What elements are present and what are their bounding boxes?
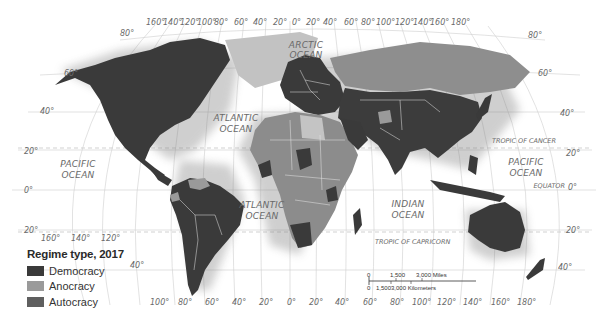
equator-label: EQUATOR [533,182,565,190]
svg-text:OCEAN: OCEAN [290,50,323,60]
svg-text:160°: 160° [491,298,510,307]
svg-text:100°: 100° [376,18,395,27]
svg-text:60°: 60° [363,298,377,307]
autocracy-swatch [27,297,44,307]
svg-text:40°: 40° [560,109,574,118]
svg-text:40°: 40° [232,298,246,307]
svg-text:40°: 40° [130,261,144,270]
tropic-of-cancer-label: TROPIC OF CANCER [492,137,556,145]
svg-text:80°: 80° [120,29,134,38]
svg-text:20°: 20° [259,298,273,307]
svg-text:80°: 80° [214,18,228,27]
ocean-label-atlantic-south: ATLANTIC OCEAN [239,200,285,221]
svg-text:0°: 0° [568,183,577,192]
svg-text:OCEAN: OCEAN [392,210,425,220]
svg-text:60°: 60° [234,18,248,27]
svg-text:40°: 40° [40,107,54,116]
svg-text:60°: 60° [538,69,552,78]
svg-text:40°: 40° [253,18,267,27]
svg-text:140°: 140° [463,298,482,307]
svg-text:20°: 20° [24,226,38,235]
svg-text:40°: 40° [558,263,572,272]
madagascar-shape [353,208,362,235]
svg-text:160°: 160° [41,234,60,243]
svg-text:20°: 20° [309,298,323,307]
ocean-label-pacific-east: PACIFIC OCEAN [60,159,96,180]
top-longitude-labels: 160° 140° 120° 100° 80° 60° 40° 20° 0° 2… [146,18,470,27]
svg-text:80°: 80° [178,298,192,307]
anocracy-swatch [27,281,44,291]
svg-text:100°: 100° [412,298,431,307]
svg-text:120°: 120° [437,298,456,307]
scale-km-1500: 1,500 [376,285,392,291]
legend-item-anocracy: Anocracy [27,279,124,295]
ocean-label-pacific-west: PACIFIC OCEAN [508,157,544,178]
svg-text:80°: 80° [361,18,375,27]
scale-miles-0: 0 [367,272,371,278]
scale-bar: 0 1,500 3,000 Miles 0 1,500 3,000 Kilome… [366,271,516,297]
svg-text:120°: 120° [395,18,414,27]
svg-text:80°: 80° [528,31,542,40]
legend-label: Anocracy [49,280,95,292]
svg-text:20°: 20° [24,147,38,156]
svg-text:ARCTIC: ARCTIC [288,40,324,50]
svg-text:0°: 0° [292,18,301,27]
svg-text:0°: 0° [24,186,33,195]
svg-text:20°: 20° [306,18,320,27]
svg-text:120°: 120° [101,234,120,243]
legend-title: Regime type, 2017 [27,248,124,260]
svg-text:OCEAN: OCEAN [62,170,95,180]
svg-text:INDIAN: INDIAN [391,199,424,209]
svg-text:60°: 60° [64,69,78,78]
svg-text:OCEAN: OCEAN [220,124,253,134]
new-zealand-shape [526,258,545,280]
scale-miles-1500: 1,500 [390,272,406,278]
svg-text:ATLANTIC: ATLANTIC [239,200,285,210]
svg-text:0°: 0° [287,298,296,307]
central-america-shape [150,168,172,186]
tropic-of-capricorn-label: TROPIC OF CAPRICORN [375,238,450,246]
legend-item-autocracy: Autocracy [27,294,124,310]
scale-bar-graphic: 0 1,500 3,000 Miles 0 1,500 3,000 Kilome… [366,271,516,297]
libya-egypt-light [300,115,325,140]
svg-text:20°: 20° [566,149,580,158]
svg-text:ATLANTIC: ATLANTIC [213,113,259,123]
svg-text:20°: 20° [273,18,287,27]
legend: Regime type, 2017 Democracy Anocracy Aut… [27,248,124,310]
svg-text:140°: 140° [71,234,90,243]
ocean-label-arctic: ARCTIC OCEAN [288,40,324,60]
svg-text:180°: 180° [517,298,536,307]
afghanistan-anocracy [378,110,392,124]
svg-text:100°: 100° [150,298,169,307]
legend-label: Autocracy [49,296,98,308]
russia-shape [330,42,530,95]
legend-label: Democracy [49,265,105,277]
svg-text:180°: 180° [451,18,470,27]
svg-text:OCEAN: OCEAN [246,211,279,221]
scale-km-3000: 3,000 Kilometers [391,285,436,291]
ocean-label-indian: INDIAN OCEAN [391,199,424,220]
svg-text:PACIFIC: PACIFIC [508,157,544,167]
svg-text:40°: 40° [335,298,349,307]
scale-miles-3000: 3,000 Miles [416,272,447,278]
svg-text:160°: 160° [430,18,449,27]
svg-text:60°: 60° [344,18,358,27]
svg-text:60°: 60° [205,298,219,307]
svg-text:PACIFIC: PACIFIC [60,159,96,169]
svg-text:80°: 80° [390,298,404,307]
ocean-label-atlantic-north: ATLANTIC OCEAN [213,113,259,134]
legend-item-democracy: Democracy [27,263,124,279]
svg-text:OCEAN: OCEAN [510,168,543,178]
right-latitude-labels: 80° 60° 40° 20° 0° 20° 40° [528,31,580,272]
svg-text:20°: 20° [566,226,580,235]
scale-km-0: 0 [367,285,371,291]
democracy-swatch [27,266,44,276]
svg-text:40°: 40° [323,18,337,27]
